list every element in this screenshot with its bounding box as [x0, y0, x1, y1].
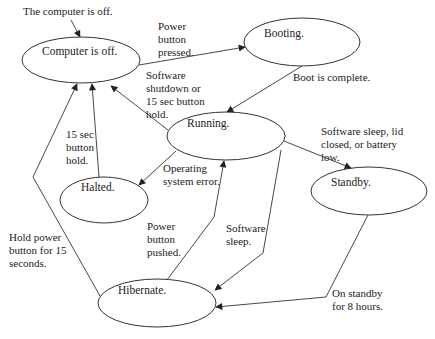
transition-label-running-to-off: Software shutdown or 15 sec button hold. — [146, 69, 205, 121]
state-booting — [244, 18, 360, 66]
state-label-halted: Halted. — [81, 181, 115, 193]
transition-label-standby-to-hibernate: On standby for 8 hours. — [332, 287, 383, 313]
transition-label-booting-to-running: Boot is complete. — [293, 71, 370, 84]
state-label-hibernate: Hibernate. — [118, 284, 166, 296]
transition-label-running-to-standby: Software sleep, lid closed, or battery l… — [321, 125, 403, 164]
transition-label-running-to-halted: Operating system error. — [163, 162, 220, 188]
edge-booting-to-running — [227, 66, 302, 112]
transition-label-off-to-booting: Power button pressed. — [158, 20, 194, 59]
initial-arrow — [71, 20, 80, 37]
edge-running-to-hibernate — [215, 150, 281, 290]
transition-label-hibernate-to-off: Hold power button for 15 seconds. — [9, 231, 66, 270]
state-computer-off — [22, 37, 140, 83]
state-label-standby: Standby. — [331, 176, 371, 188]
state-standby — [311, 167, 427, 215]
state-label-booting: Booting. — [264, 27, 304, 39]
initial-state-label: The computer is off. — [23, 5, 113, 18]
transition-label-running-to-hibernate: Software sleep. — [226, 222, 266, 248]
transition-label-halted-to-off: 15 sec button hold. — [66, 128, 94, 167]
transition-label-hibernate-to-running: Power button pushed. — [147, 220, 181, 259]
state-label-computer-off: Computer is off. — [42, 45, 118, 57]
